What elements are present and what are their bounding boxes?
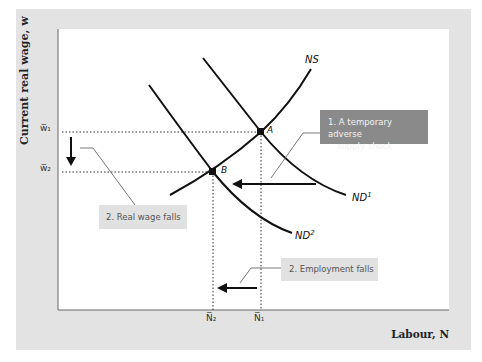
wage-fall-arrowhead	[66, 157, 76, 166]
nd1-label: ND1	[352, 191, 372, 203]
wage-leader-line	[80, 148, 135, 205]
wage-falls-annotation: 2. Real wage falls	[99, 205, 187, 229]
ns-label: NS	[305, 54, 319, 65]
shock-annotation-line1: 1. A temporary adverse	[328, 116, 428, 140]
nd2-label: ND2	[295, 229, 315, 241]
shock-annotation-line2: supply shock	[328, 140, 428, 152]
employment-fall-arrowhead	[217, 283, 227, 293]
diagram-graphics	[0, 0, 482, 362]
nd2-label-text: ND	[295, 230, 310, 241]
nd2-label-sup: 2	[310, 229, 314, 237]
point-a-marker	[257, 128, 264, 135]
demand-shift-arrowhead	[232, 179, 242, 189]
n2-tick: N̅₂	[206, 313, 216, 323]
w1-tick: w̅₁	[40, 123, 51, 133]
w2-tick: w̅₂	[40, 163, 51, 173]
x-axis-label: Labour, N	[391, 328, 449, 340]
nd1-label-sup: 1	[367, 191, 371, 199]
nd1-label-text: ND	[352, 192, 367, 203]
n1-tick: N̅₁	[254, 313, 264, 323]
shock-leader-line	[271, 133, 320, 178]
point-a-label: A	[267, 125, 273, 135]
y-axis-label-text: Current real wage, w	[18, 16, 31, 145]
point-b-marker	[209, 168, 216, 175]
shock-annotation: 1. A temporary adverse supply shock	[320, 110, 428, 144]
point-b-label: B	[221, 165, 227, 175]
employment-falls-annotation: 2. Employment falls	[281, 258, 378, 281]
